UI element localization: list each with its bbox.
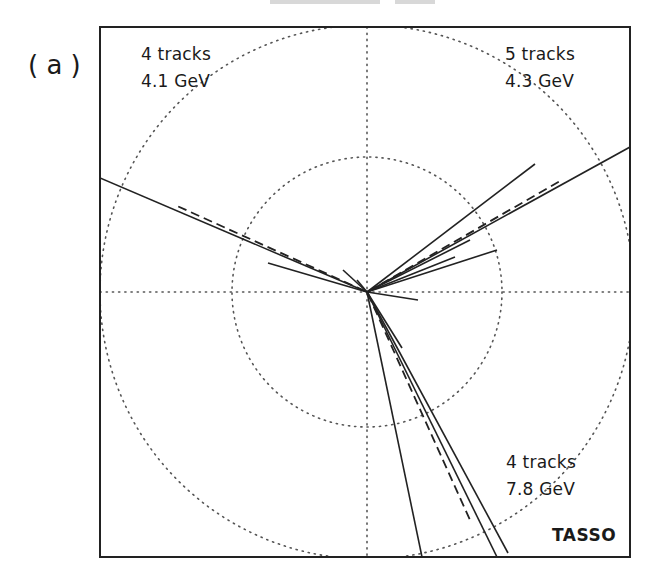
experiment-label: TASSO [552, 527, 616, 544]
jet-upper-right-energy: 4.3 GeV [505, 73, 574, 90]
jet-lower-right-tracks: 4 tracks [506, 454, 576, 471]
panel-label: ( a ) [28, 52, 81, 78]
clipped-header-text [270, 0, 435, 4]
jet-upper-left-tracks: 4 tracks [141, 46, 211, 63]
jet-upper-left-energy: 4.1 GeV [141, 73, 210, 90]
jet-upper-right-tracks: 5 tracks [505, 46, 575, 63]
jet-lower-right-energy: 7.8 GeV [506, 481, 575, 498]
event-display-figure: ( a ) 4 tracks 4.1 GeV 5 tracks 4.3 GeV … [0, 0, 651, 584]
